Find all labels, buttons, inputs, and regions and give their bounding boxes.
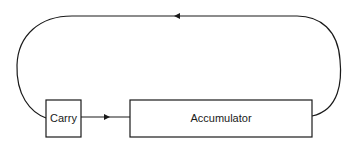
accumulator-block: Accumulator: [130, 100, 312, 137]
arrow-right-icon: [104, 114, 110, 120]
accumulator-label: Accumulator: [190, 112, 251, 124]
arrow-left-icon: [174, 13, 180, 19]
carry-accumulator-loop-diagram: Carry Accumulator: [0, 0, 356, 148]
carry-block: Carry: [46, 100, 81, 137]
carry-label: Carry: [50, 112, 77, 124]
